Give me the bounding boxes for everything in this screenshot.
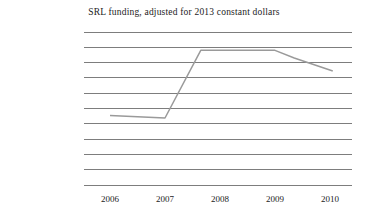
x-axis-tick-label: 2007 bbox=[156, 194, 174, 205]
x-axis-labels: 20062007200820092010 bbox=[0, 0, 368, 215]
chart-container: SRL funding, adjusted for 2013 constant … bbox=[0, 0, 368, 215]
x-axis-tick-label: 2009 bbox=[266, 194, 284, 205]
x-axis-tick-label: 2008 bbox=[211, 194, 229, 205]
x-axis-tick-label: 2006 bbox=[101, 194, 119, 205]
x-axis-tick-label: 2010 bbox=[321, 194, 339, 205]
